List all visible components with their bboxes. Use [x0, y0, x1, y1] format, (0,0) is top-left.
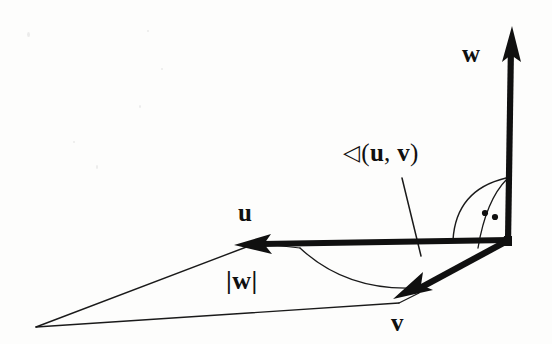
scan-speck	[27, 32, 30, 37]
scan-speck	[147, 30, 149, 32]
angle-arg-u: u	[370, 139, 384, 166]
vector-u-label: u	[238, 200, 252, 225]
vector-w-label: w	[462, 41, 480, 66]
scan-speck	[96, 165, 98, 169]
angle-arc-u-v	[300, 248, 412, 288]
angle-comma: ,	[384, 139, 391, 166]
magnitude-w-label: |w|	[226, 268, 258, 294]
angle-symbol-icon: ◁	[343, 140, 361, 165]
scan-speck	[73, 141, 75, 143]
vector-v	[393, 241, 507, 299]
angle-u-v-label: ◁(u, v)	[343, 140, 419, 165]
scan-speck	[161, 68, 163, 70]
vector-w	[502, 26, 521, 242]
angle-close-paren: )	[410, 139, 419, 166]
scan-speck	[139, 105, 141, 108]
angle-open-paren: (	[361, 139, 370, 166]
vector-diagram-figure: w u v |w| ◁(u, v)	[0, 0, 552, 344]
vector-u	[234, 234, 509, 254]
vector-v-label: v	[391, 310, 404, 335]
angle-arg-v: v	[397, 139, 410, 166]
